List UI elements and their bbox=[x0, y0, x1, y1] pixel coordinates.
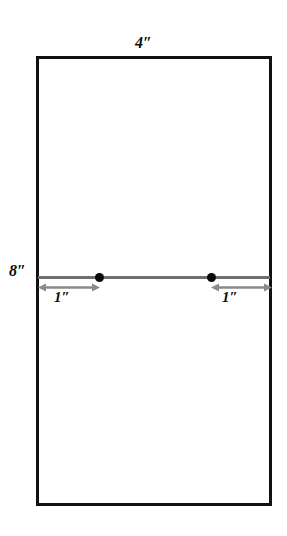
hole-marker-left bbox=[95, 273, 104, 282]
diagram-canvas: 4″ 8″ 1″ 1″ bbox=[0, 0, 287, 536]
width-dimension-label: 4″ bbox=[0, 34, 287, 52]
dimension-arrow-right bbox=[211, 281, 272, 294]
hole-marker-right bbox=[207, 273, 216, 282]
height-dimension-label: 8″ bbox=[9, 262, 26, 280]
horizontal-center-line bbox=[38, 276, 270, 279]
dimension-label-right: 1″ bbox=[222, 289, 238, 306]
dimension-label-left: 1″ bbox=[54, 289, 70, 306]
